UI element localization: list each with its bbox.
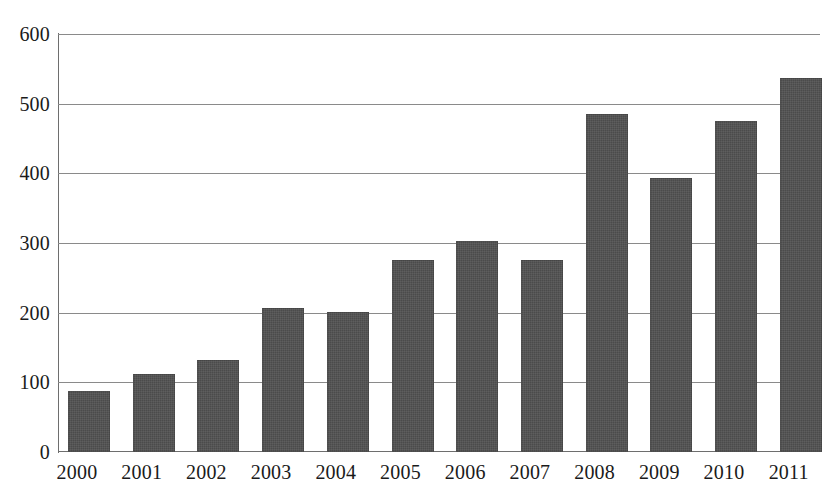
gridline-200 <box>58 313 820 314</box>
y-tick-label-500: 500 <box>2 94 50 114</box>
gridline-500 <box>58 104 820 105</box>
y-tick-label-300: 300 <box>2 233 50 253</box>
y-tick-label-400: 400 <box>2 163 50 183</box>
bar-2010[interactable] <box>715 121 757 452</box>
x-tick-label-2010: 2010 <box>694 461 754 483</box>
bar-2008[interactable] <box>586 114 628 452</box>
bar-2004[interactable] <box>327 312 369 452</box>
x-tick-label-2005: 2005 <box>371 461 431 483</box>
x-tick-label-2000: 2000 <box>47 461 107 483</box>
x-tick-label-2006: 2006 <box>435 461 495 483</box>
y-tick-label-100: 100 <box>2 372 50 392</box>
gridline-600 <box>58 34 820 35</box>
y-tick-label-0: 0 <box>2 442 50 462</box>
bar-chart: 600 500 400 300 200 100 0 2000 2001 2002 <box>0 0 829 497</box>
x-tick-label-2007: 2007 <box>500 461 560 483</box>
x-tick-label-2003: 2003 <box>241 461 301 483</box>
gridline-300 <box>58 243 820 244</box>
x-tick-label-2008: 2008 <box>565 461 625 483</box>
x-tick-label-2011: 2011 <box>759 461 819 483</box>
x-tick-label-2004: 2004 <box>306 461 366 483</box>
y-tick-label-200: 200 <box>2 303 50 323</box>
x-tick-label-2009: 2009 <box>629 461 689 483</box>
x-tick-label-2001: 2001 <box>112 461 172 483</box>
bar-2005[interactable] <box>392 260 434 452</box>
x-tick-label-2002: 2002 <box>176 461 236 483</box>
bar-2009[interactable] <box>650 178 692 452</box>
plot-area <box>58 34 820 452</box>
bar-2002[interactable] <box>197 360 239 452</box>
bar-2001[interactable] <box>133 374 175 452</box>
y-axis-labels: 600 500 400 300 200 100 0 <box>0 0 50 497</box>
bar-2006[interactable] <box>456 241 498 452</box>
gridline-400 <box>58 173 820 174</box>
bar-2000[interactable] <box>68 391 110 452</box>
bar-2003[interactable] <box>262 308 304 452</box>
y-tick-label-600: 600 <box>2 24 50 44</box>
bar-2007[interactable] <box>521 260 563 452</box>
bar-2011[interactable] <box>780 78 822 452</box>
